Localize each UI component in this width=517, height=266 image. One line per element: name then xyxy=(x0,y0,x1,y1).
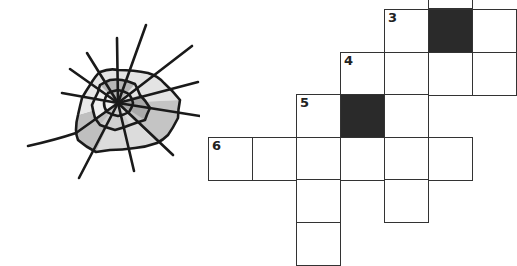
crossword-cell[interactable]: 4 xyxy=(340,52,385,96)
crossword-black-cell xyxy=(340,94,385,138)
crossword-cell[interactable] xyxy=(252,137,297,181)
crossword-cell[interactable]: 5 xyxy=(296,94,341,138)
crossword-cell[interactable] xyxy=(472,52,517,96)
crossword-cell[interactable] xyxy=(384,52,429,96)
clue-number: 3 xyxy=(388,11,397,24)
crossword-cell[interactable] xyxy=(428,137,473,181)
crossword-cell[interactable] xyxy=(384,179,429,223)
crossword-cell[interactable] xyxy=(428,52,473,96)
clue-number: 6 xyxy=(212,139,221,152)
crossword-black-cell xyxy=(428,9,473,53)
crossword-cell[interactable] xyxy=(428,0,473,9)
clue-number: 5 xyxy=(300,96,309,109)
crossword-cell[interactable] xyxy=(384,94,429,138)
crossword-cell[interactable]: 6 xyxy=(208,137,253,181)
crossword-cell[interactable] xyxy=(296,137,341,181)
clue-number: 4 xyxy=(344,54,353,67)
crossword-cell[interactable] xyxy=(384,137,429,181)
crossword-cell[interactable] xyxy=(296,179,341,223)
crossword-cell[interactable] xyxy=(296,222,341,266)
crossword-cell[interactable] xyxy=(340,137,385,181)
crossword-cell[interactable] xyxy=(472,9,517,53)
crossword-cell[interactable]: 3 xyxy=(384,9,429,53)
